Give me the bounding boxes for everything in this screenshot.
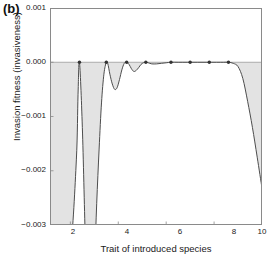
figure-panel-b: (b) Invasion fitness (invasiveness) Trai… <box>0 0 275 259</box>
resident-trait-marker <box>208 61 211 64</box>
resident-trait-marker <box>125 61 128 64</box>
x-tick-0: 2 <box>63 228 83 236</box>
resident-trait-marker <box>169 61 172 64</box>
x-tick-3: 8 <box>224 228 244 236</box>
x-tick-4: 10 <box>252 228 272 236</box>
resident-trait-marker <box>144 61 147 64</box>
resident-trait-marker <box>227 61 230 64</box>
resident-trait-marker <box>188 61 191 64</box>
chart-canvas <box>50 8 262 225</box>
resident-trait-marker <box>78 61 81 64</box>
plot-area <box>50 8 262 225</box>
x-tick-1: 4 <box>117 228 137 236</box>
x-tick-2: 6 <box>170 228 190 236</box>
negative-fitness-shaded-region <box>50 61 262 225</box>
resident-trait-marker <box>105 61 108 64</box>
